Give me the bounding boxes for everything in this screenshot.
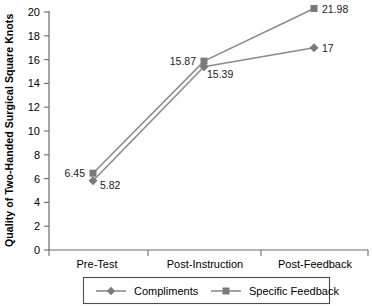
data-label-pre-feedback: 6.45: [65, 167, 86, 179]
data-point-marker-square: [90, 170, 97, 177]
y-tick-label: 4: [34, 196, 40, 208]
y-tick-label: 10: [28, 125, 40, 137]
y-tick-label: 8: [34, 149, 40, 161]
chart-figure: Quality of Two-Handed Surgical Square Kn…: [0, 0, 372, 306]
y-axis-tick-labels: 20 18 16 14 12 10 8 6 4 2 0: [28, 6, 40, 256]
legend-label-compliments: Compliments: [134, 285, 199, 297]
data-label-post-feedback-feedback: 21.98: [322, 3, 348, 15]
diamond-marker-icon: [107, 287, 115, 295]
legend-label-specific-feedback: Specific Feedback: [249, 285, 339, 297]
square-marker-icon: [223, 288, 230, 295]
line-chart: Quality of Two-Handed Surgical Square Kn…: [0, 0, 372, 306]
y-tick-label: 6: [34, 173, 40, 185]
y-tick-label: 20: [28, 6, 40, 18]
series-line-specific-feedback: [93, 9, 314, 174]
chart-legend: Compliments Specific Feedback: [84, 278, 340, 304]
data-point-marker-square: [311, 5, 318, 12]
legend-item-specific-feedback[interactable]: Specific Feedback: [211, 285, 339, 297]
data-label-post-instruction-feedback: 15.87: [170, 55, 196, 67]
y-tick-label: 18: [28, 30, 40, 42]
series-compliments: [89, 43, 319, 185]
data-label-post-feedback-compliments: 17: [322, 42, 334, 54]
data-point-labels: 6.45 5.82 15.87 15.39 21.98 17: [65, 3, 349, 191]
y-tick-label: 2: [34, 220, 40, 232]
y-tick-label: 12: [28, 101, 40, 113]
x-category-label-post-feedback: Post-Feedback: [278, 258, 352, 270]
data-label-post-instruction-compliments: 15.39: [207, 68, 233, 80]
y-axis-ticks: [44, 12, 49, 250]
y-tick-label: 14: [28, 77, 40, 89]
data-label-pre-compliments: 5.82: [100, 179, 121, 191]
y-tick-label: 16: [28, 54, 40, 66]
y-tick-label: 0: [34, 244, 40, 256]
legend-item-compliments[interactable]: Compliments: [96, 285, 199, 297]
x-category-label-post-instruction: Post-Instruction: [167, 258, 243, 270]
y-axis-title: Quality of Two-Handed Surgical Square Kn…: [3, 14, 15, 247]
series-specific-feedback: [90, 5, 318, 177]
x-axis-category-labels: Pre-Test Post-Instruction Post-Feedback: [77, 258, 353, 270]
data-point-marker-diamond: [310, 43, 319, 52]
x-category-label-pre-test: Pre-Test: [77, 258, 118, 270]
x-axis-ticks: [49, 250, 368, 256]
